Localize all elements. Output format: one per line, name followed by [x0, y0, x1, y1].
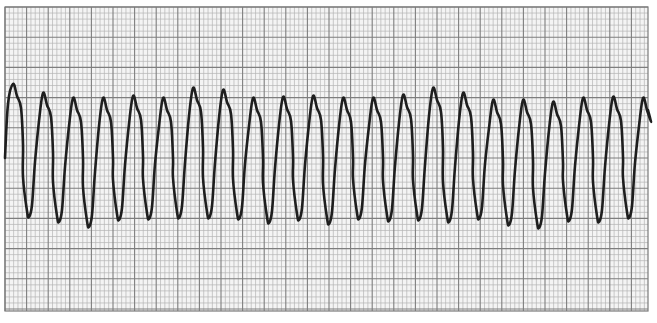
ecg-paper — [5, 7, 648, 311]
ecg-strip — [0, 0, 657, 323]
